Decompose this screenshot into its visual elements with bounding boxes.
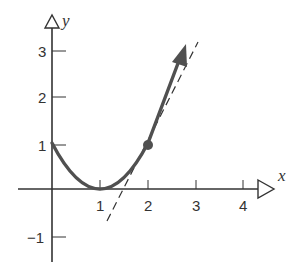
y-tick-label-2: 2 bbox=[38, 89, 46, 106]
curve-arrowhead-icon bbox=[172, 44, 187, 67]
y-tick-label-minus-1: −1 bbox=[27, 229, 44, 246]
parabola-curve bbox=[52, 58, 180, 189]
y-tick-label-3: 3 bbox=[38, 43, 46, 60]
x-tick-label-3: 3 bbox=[192, 197, 200, 214]
x-axis-label: x bbox=[277, 166, 286, 185]
x-axis-arrow-icon bbox=[258, 180, 274, 198]
y-tick-label-1: 1 bbox=[38, 137, 46, 154]
x-tick-label-2: 2 bbox=[144, 197, 152, 214]
y-axis-arrow-icon bbox=[45, 15, 59, 28]
y-axis-label: y bbox=[60, 11, 70, 30]
x-axis: 1 2 3 4 x bbox=[18, 166, 286, 214]
x-tick-label-1: 1 bbox=[96, 197, 104, 214]
y-axis: 3 2 1 −1 y bbox=[27, 11, 70, 262]
x-tick-label-4: 4 bbox=[239, 197, 247, 214]
function-graph: 1 2 3 4 x 3 2 1 −1 y bbox=[0, 0, 302, 269]
tangent-point bbox=[143, 140, 153, 150]
